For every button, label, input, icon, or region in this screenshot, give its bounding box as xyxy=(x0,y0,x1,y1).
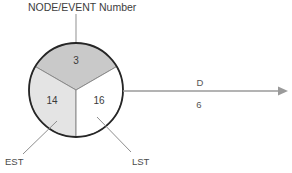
edge-name-label: D xyxy=(197,77,204,88)
est-label: EST xyxy=(5,156,24,167)
diagram-canvas: NODE/EVENT Number 3 14 16 EST LST D 6 xyxy=(0,0,292,173)
lst-leader-line xyxy=(97,117,131,152)
lst-value: 16 xyxy=(93,95,105,106)
edge-duration-label: 6 xyxy=(196,99,201,110)
activity-arrow-head xyxy=(278,87,288,96)
lst-label: LST xyxy=(132,156,150,167)
diagram-title: NODE/EVENT Number xyxy=(28,1,137,13)
est-value: 14 xyxy=(46,95,58,106)
est-leader-line xyxy=(23,121,57,154)
event-number-value: 3 xyxy=(73,55,79,66)
node-event-diagram: NODE/EVENT Number 3 14 16 EST LST D 6 xyxy=(0,0,292,173)
